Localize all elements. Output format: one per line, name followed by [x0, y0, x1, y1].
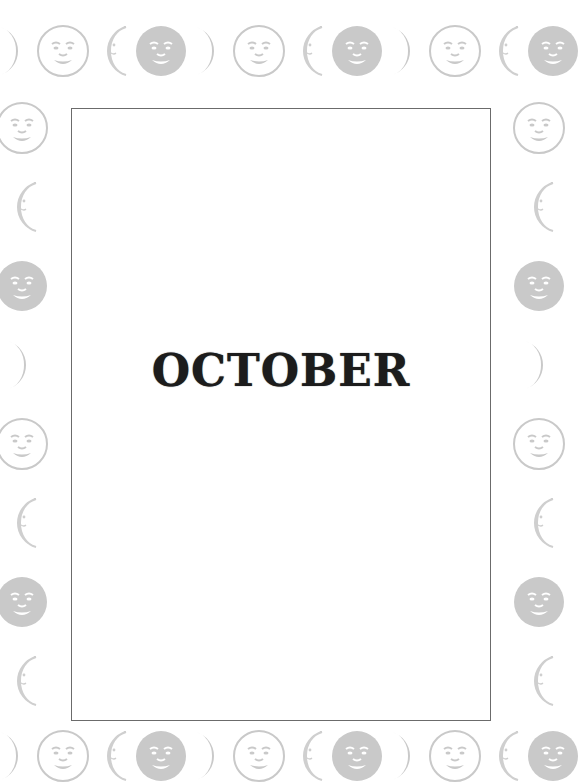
moon-top-crescent-light-left-icon	[280, 23, 336, 79]
month-title: OCTOBER	[72, 345, 490, 396]
moon-top-face-dark-icon	[525, 23, 581, 79]
moon-top-crescent-dark-right-icon	[378, 23, 434, 79]
moon-right-face-dark-icon	[511, 574, 567, 630]
moon-bottom-face-outline-icon	[427, 728, 483, 784]
moon-bottom-face-dark-icon	[525, 728, 581, 784]
moon-bottom-face-dark-icon	[133, 728, 189, 784]
moon-top-crescent-light-left-icon	[476, 23, 532, 79]
moon-bottom-crescent-light-left-icon	[84, 728, 140, 784]
moon-top-crescent-dark-right-icon	[182, 23, 238, 79]
moon-left-face-dark-icon	[0, 258, 50, 314]
moon-bottom-crescent-light-left-icon	[476, 728, 532, 784]
moon-top-face-dark-icon	[329, 23, 385, 79]
moon-right-crescent-light-left-icon	[511, 179, 567, 235]
moon-left-crescent-dark-right-icon	[0, 337, 50, 393]
moon-top-face-outline-icon	[35, 23, 91, 79]
moon-top-face-outline-icon	[231, 23, 287, 79]
moon-top-crescent-light-left-icon	[84, 23, 140, 79]
moon-bottom-face-outline-icon	[231, 728, 287, 784]
moon-left-face-outline-icon	[0, 100, 50, 156]
moon-left-crescent-light-left-icon	[0, 495, 50, 551]
moon-bottom-face-outline-icon	[35, 728, 91, 784]
moon-left-crescent-light-left-icon	[0, 653, 50, 709]
moon-bottom-crescent-dark-right-icon	[182, 728, 238, 784]
moon-bottom-crescent-light-left-icon	[280, 728, 336, 784]
moon-bottom-face-dark-icon	[329, 728, 385, 784]
moon-right-crescent-dark-right-icon	[511, 337, 567, 393]
moon-right-face-outline-icon	[511, 416, 567, 472]
moon-bottom-crescent-dark-right-icon	[378, 728, 434, 784]
moon-left-face-outline-icon	[0, 416, 50, 472]
calendar-cover-frame: OCTOBER	[71, 108, 491, 721]
moon-left-crescent-light-left-icon	[0, 179, 50, 235]
moon-top-face-dark-icon	[133, 23, 189, 79]
moon-right-face-outline-icon	[511, 100, 567, 156]
moon-left-face-dark-icon	[0, 574, 50, 630]
moon-right-face-dark-icon	[511, 258, 567, 314]
moon-top-face-outline-icon	[427, 23, 483, 79]
moon-right-crescent-light-left-icon	[511, 495, 567, 551]
moon-right-crescent-light-left-icon	[511, 653, 567, 709]
